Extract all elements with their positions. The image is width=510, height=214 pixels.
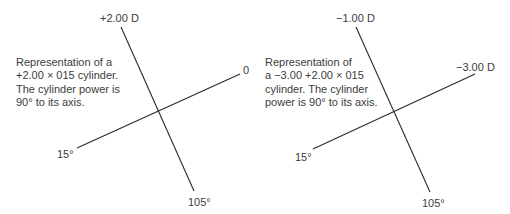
caption-line: power is 90° to its axis.	[265, 96, 378, 109]
caption-line: 90° to its axis.	[16, 96, 120, 109]
caption-line: +2.00 × 015 cylinder.	[16, 69, 120, 82]
right-axis-15-label: 15°	[295, 151, 312, 163]
left-caption: Representation of a +2.00 × 015 cylinder…	[16, 56, 120, 109]
right-caption: Representation of a −3.00 +2.00 × 015 cy…	[265, 56, 378, 109]
left-power-meridian-line	[121, 27, 194, 191]
caption-line: a −3.00 +2.00 × 015	[265, 69, 378, 82]
caption-line: The cylinder power is	[16, 83, 120, 96]
right-axis-power-label: −3.00 D	[456, 61, 495, 73]
right-top-power-label: −1.00 D	[336, 12, 375, 24]
left-top-power-label: +2.00 D	[100, 12, 139, 24]
caption-line: Representation of a	[16, 56, 120, 69]
left-axis-zero-label: 0	[243, 64, 249, 76]
right-bottom-105-label: 105°	[422, 197, 445, 209]
caption-line: Representation of	[265, 56, 378, 69]
left-bottom-105-label: 105°	[188, 196, 211, 208]
left-axis-15-label: 15°	[57, 148, 74, 160]
caption-line: cylinder. The cylinder	[265, 83, 378, 96]
right-power-meridian-line	[356, 27, 430, 192]
